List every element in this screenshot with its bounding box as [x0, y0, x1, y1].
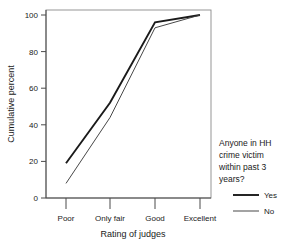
- x-tick-label-excellent: Excellent: [184, 214, 217, 223]
- y-tick-label-100: 100: [25, 11, 39, 20]
- data-series-group: [66, 15, 200, 183]
- x-axis: Poor Only fair Good Excellent Rating of …: [46, 198, 217, 239]
- x-tick-label-poor: Poor: [58, 214, 75, 223]
- y-axis-title: Cumulative percent: [6, 65, 16, 143]
- y-tick-label-20: 20: [29, 157, 38, 166]
- y-tick-label-60: 60: [29, 84, 38, 93]
- y-tick-label-40: 40: [29, 121, 38, 130]
- legend-label-yes: Yes: [264, 191, 277, 200]
- cumulative-percent-line-chart: 100 80 60 40 20 0 Cumulative percent Poo…: [0, 0, 289, 247]
- legend-title-line-4: years?: [219, 174, 245, 184]
- legend-label-no: No: [264, 207, 275, 216]
- y-axis: 100 80 60 40 20 0 Cumulative percent: [6, 10, 46, 203]
- x-tick-label-only-fair: Only fair: [95, 214, 125, 223]
- plot-area-border: [46, 10, 211, 198]
- legend-item-no[interactable]: No: [233, 207, 275, 216]
- legend: Anyone in HH crime victim within past 3 …: [218, 138, 277, 216]
- legend-title-line-1: Anyone in HH: [219, 138, 271, 148]
- plot-frame: [46, 10, 211, 198]
- series-line-yes: [66, 15, 200, 163]
- chart-canvas: 100 80 60 40 20 0 Cumulative percent Poo…: [0, 0, 289, 247]
- x-axis-title: Rating of judges: [100, 229, 166, 239]
- y-tick-label-80: 80: [29, 48, 38, 57]
- series-line-no: [66, 15, 200, 183]
- legend-item-yes[interactable]: Yes: [233, 191, 277, 200]
- y-tick-label-0: 0: [34, 194, 39, 203]
- legend-title-line-3: within past 3: [218, 162, 267, 172]
- legend-title-line-2: crime victim: [219, 150, 264, 160]
- x-tick-label-good: Good: [145, 214, 165, 223]
